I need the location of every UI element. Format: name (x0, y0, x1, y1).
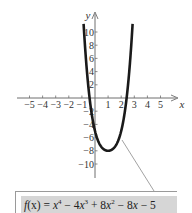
formula-op: − 4 (61, 199, 79, 211)
formula-op: − 5 (138, 199, 156, 211)
formula-label-box: f(x) = x4 − 4x3 + 8x2 − 8x − 5 (15, 191, 177, 213)
x-tick-label: 4 (145, 99, 150, 110)
x-tick-label: −3 (50, 99, 61, 110)
y-tick-label: 8 (89, 40, 94, 51)
x-tick-label: −4 (37, 99, 48, 110)
x-tick-label: −5 (24, 99, 35, 110)
x-axis-label: x (179, 98, 185, 110)
formula-op: + 8 (88, 199, 106, 211)
leader-line (122, 140, 154, 191)
y-axis-label: y (85, 9, 91, 21)
y-tick-label: −8 (83, 145, 94, 156)
formula-eq: = (41, 199, 53, 211)
x-tick-label: −2 (63, 99, 74, 110)
formula-label: f(x) = x4 − 4x3 + 8x2 − 8x − 5 (21, 196, 177, 213)
y-tick-label: −6 (83, 132, 94, 143)
y-tick-label: 6 (89, 53, 94, 64)
y-tick-label: −10 (78, 159, 94, 170)
formula-op: − 8 (115, 199, 133, 211)
x-tick-label: 3 (132, 99, 137, 110)
x-tick-label: 2 (119, 99, 124, 110)
function-graph: x y −5−4−3−2−112345 108642−2−4−6−8−10 (0, 0, 192, 213)
x-tick-label: 1 (106, 99, 111, 110)
x-tick-label: 5 (158, 99, 163, 110)
y-tick-label: 4 (89, 66, 94, 77)
formula-arg: (x) (27, 199, 40, 211)
